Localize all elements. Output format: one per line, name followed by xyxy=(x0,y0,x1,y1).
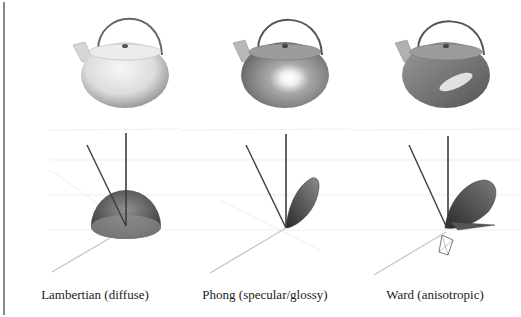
caption-ward: Ward (anisotropic) xyxy=(350,287,520,303)
floor-grid xyxy=(180,129,350,250)
teapot-lambertian xyxy=(73,19,169,108)
ground-axis xyxy=(210,228,286,273)
teapot-phong xyxy=(233,20,329,108)
lambertian-illustration xyxy=(10,0,180,285)
teapot-ward xyxy=(395,21,490,108)
light-direction-axis xyxy=(246,145,286,228)
specular-lobe xyxy=(286,178,319,228)
ground-axis xyxy=(374,232,446,275)
panel-ward: Ward (anisotropic) xyxy=(350,0,520,317)
ground-axis xyxy=(52,238,110,272)
panel-phong: Phong (specular/glossy) xyxy=(180,0,350,317)
phong-illustration xyxy=(180,0,350,285)
panel-lambertian: Lambertian (diffuse) xyxy=(10,0,180,317)
floor-grid xyxy=(350,129,521,230)
light-direction-axis xyxy=(409,145,446,226)
ward-illustration xyxy=(350,0,521,285)
caption-lambertian: Lambertian (diffuse) xyxy=(10,287,180,303)
left-border-rule xyxy=(3,2,5,315)
caption-phong: Phong (specular/glossy) xyxy=(180,287,350,303)
